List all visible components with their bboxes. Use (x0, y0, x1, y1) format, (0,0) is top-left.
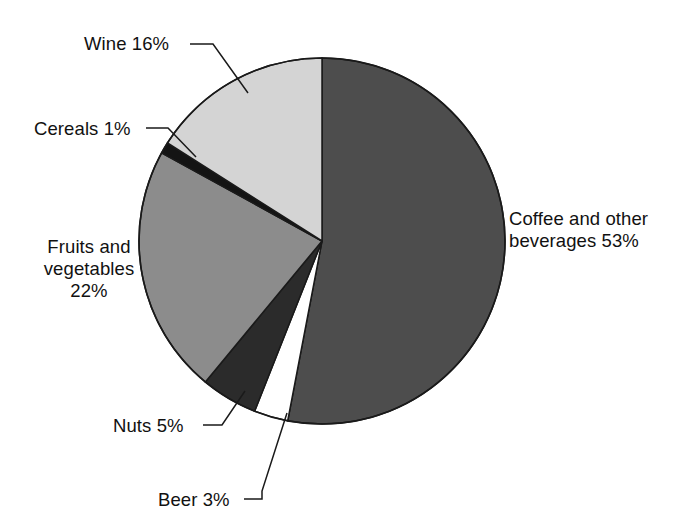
slice-label-wine: Wine 16% (84, 33, 169, 55)
slice-label-coffee-line-2: beverages 53% (509, 230, 669, 252)
slice-label-fruits-line-3: 22% (26, 280, 152, 302)
slice-label-cereals-text: Cereals 1% (34, 118, 131, 139)
slice-label-cereals: Cereals 1% (34, 118, 131, 140)
slice-label-wine-text: Wine 16% (84, 33, 169, 54)
slice-label-nuts-text: Nuts 5% (113, 415, 184, 436)
slice-label-beer: Beer 3% (158, 489, 230, 511)
pie-slices-group (139, 58, 505, 424)
slice-label-coffee-line-1: Coffee and other (509, 208, 669, 230)
slice-label-fruits-line-2: vegetables (26, 258, 152, 280)
slice-label-fruits-and-vegetables: Fruits and vegetables 22% (26, 236, 152, 302)
slice-label-fruits-line-1: Fruits and (26, 236, 152, 258)
slice-label-nuts: Nuts 5% (113, 415, 184, 437)
slice-label-coffee-and-other-beverages: Coffee and other beverages 53% (509, 208, 669, 252)
slice-label-beer-text: Beer 3% (158, 489, 230, 510)
pie-chart-figure: Wine 16% Cereals 1% Fruits and vegetable… (0, 0, 681, 532)
leader-line-beer (244, 413, 287, 499)
